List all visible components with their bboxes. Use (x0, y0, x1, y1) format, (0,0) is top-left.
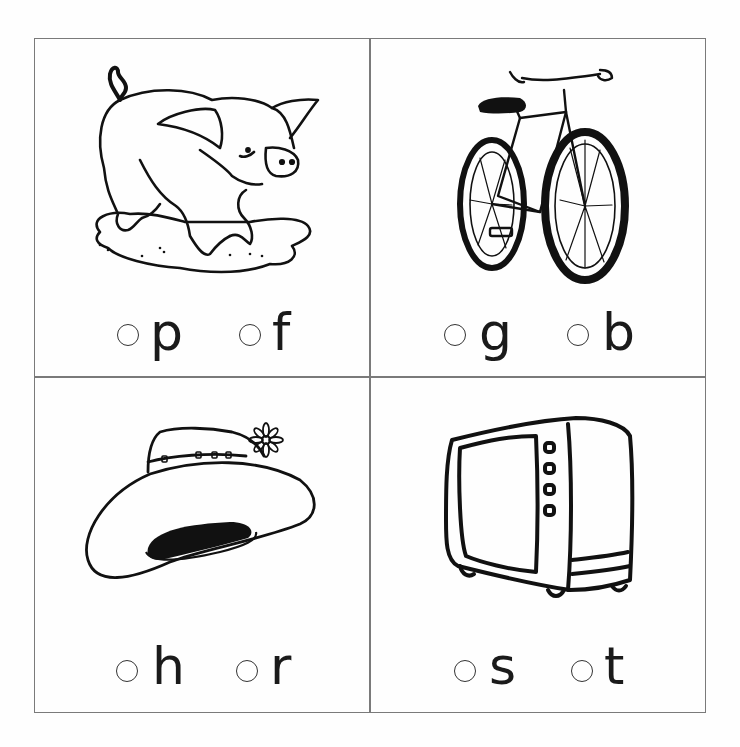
answer-bubble[interactable] (454, 660, 476, 682)
answer-bubble[interactable] (571, 660, 593, 682)
answer-letter: t (604, 640, 624, 692)
television-icon (0, 0, 740, 747)
worksheet-page: p f (0, 0, 740, 747)
answer-letter: s (489, 640, 516, 692)
panel-television: s t (0, 0, 740, 747)
